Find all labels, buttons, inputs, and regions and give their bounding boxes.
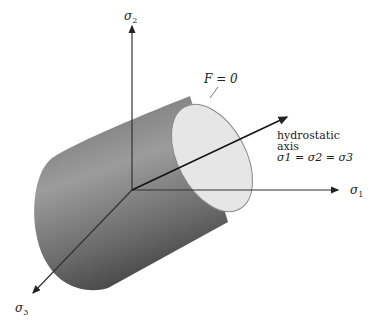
yield-surface-diagram: σ2 σ1 σ3 F = 0 hydrostatic axis σ1 = σ2 … [0,0,376,325]
sigma3-label: σ3 [15,302,28,319]
sigma1-label: σ1 [350,184,363,201]
yield-surface-label: F = 0 [204,73,238,85]
surface-leader-line [210,87,218,98]
hydrostatic-equation: σ1 = σ2 = σ3 [277,152,353,163]
sigma2-label: σ2 [124,10,137,27]
